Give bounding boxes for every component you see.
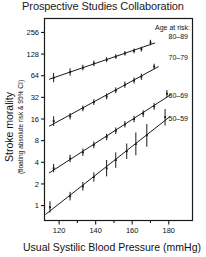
legend-entry-60-69: 60–69 bbox=[169, 92, 189, 99]
data-point bbox=[164, 116, 166, 118]
data-point bbox=[106, 167, 108, 169]
series-70-79 bbox=[49, 64, 159, 127]
data-point bbox=[69, 115, 71, 117]
data-point bbox=[53, 77, 55, 79]
data-point bbox=[124, 84, 126, 86]
y-tick-label: 2 bbox=[35, 180, 39, 189]
legend-entry-70-79: 70–79 bbox=[169, 54, 189, 61]
data-point bbox=[106, 59, 108, 61]
data-point bbox=[124, 123, 126, 125]
x-tick-label: 120 bbox=[53, 226, 66, 235]
data-point bbox=[124, 52, 126, 54]
data-point bbox=[115, 89, 117, 91]
data-point bbox=[93, 62, 95, 64]
stroke-mortality-plot: 2561286432168421 120140160180 Age at ris… bbox=[0, 0, 206, 257]
data-point bbox=[82, 107, 84, 109]
legend-entry-50-59: 50–59 bbox=[169, 115, 189, 122]
data-point bbox=[153, 105, 155, 107]
data-point bbox=[69, 158, 71, 160]
data-point bbox=[153, 66, 155, 68]
legend-title: Age at risk: bbox=[155, 24, 190, 32]
data-point bbox=[106, 96, 108, 98]
x-tick-label: 180 bbox=[162, 226, 175, 235]
data-series-layer bbox=[45, 40, 171, 215]
legend-entry-80-89: 80–89 bbox=[169, 33, 189, 40]
data-point bbox=[126, 150, 128, 152]
y-tick-label: 256 bbox=[26, 28, 39, 37]
data-point bbox=[93, 101, 95, 103]
data-point bbox=[106, 136, 108, 138]
data-point bbox=[142, 113, 144, 115]
series-fit-line bbox=[49, 94, 171, 173]
y-axis-ticks: 2561286432168421 bbox=[26, 28, 44, 210]
data-point bbox=[82, 185, 84, 187]
y-tick-label: 16 bbox=[31, 115, 39, 124]
data-point bbox=[82, 67, 84, 69]
data-point bbox=[140, 48, 142, 50]
series-60-69 bbox=[49, 90, 171, 173]
data-point bbox=[53, 167, 55, 169]
data-point bbox=[133, 50, 135, 52]
data-point bbox=[93, 176, 95, 178]
y-tick-label: 64 bbox=[31, 71, 39, 80]
data-point bbox=[133, 118, 135, 120]
data-point bbox=[133, 80, 135, 82]
x-tick-label: 140 bbox=[89, 226, 102, 235]
data-point bbox=[140, 76, 142, 78]
data-point bbox=[53, 120, 55, 122]
chart-figure: Prospective Studies Collaboration 256128… bbox=[0, 0, 206, 257]
x-axis-title: Usual Systilic Blood Pressure (mmHg) bbox=[23, 241, 201, 253]
data-point bbox=[93, 144, 95, 146]
x-tick-label: 160 bbox=[126, 226, 139, 235]
y-axis-subtitle: (floating absolute risk & 95% CI) bbox=[17, 80, 25, 174]
data-point bbox=[135, 143, 137, 145]
y-tick-label: 1 bbox=[35, 201, 39, 210]
data-point bbox=[69, 71, 71, 73]
y-tick-label: 32 bbox=[31, 93, 39, 102]
data-point bbox=[115, 56, 117, 58]
series-fit-line bbox=[49, 43, 155, 79]
y-tick-label: 8 bbox=[35, 136, 39, 145]
series-80-89 bbox=[49, 40, 155, 82]
data-point bbox=[49, 206, 51, 208]
data-point bbox=[150, 42, 152, 44]
data-point bbox=[115, 159, 117, 161]
data-point bbox=[69, 195, 71, 197]
data-point bbox=[115, 130, 117, 132]
series-fit-line bbox=[45, 117, 169, 215]
data-point bbox=[82, 151, 84, 153]
data-point bbox=[146, 134, 148, 136]
y-tick-label: 128 bbox=[26, 50, 39, 59]
x-axis-ticks: 120140160180 bbox=[53, 221, 175, 236]
series-fit-line bbox=[49, 66, 159, 126]
chart-legend: Age at risk:80–8970–7960–6950–59 bbox=[155, 24, 190, 122]
y-tick-label: 4 bbox=[35, 158, 39, 167]
y-axis-title: Stroke morality bbox=[3, 91, 15, 162]
series-50-59 bbox=[45, 109, 169, 214]
